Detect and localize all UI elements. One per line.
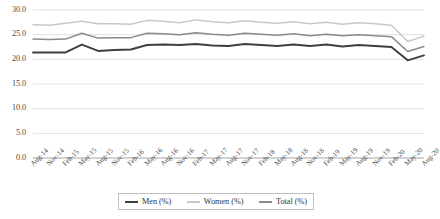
gridlines bbox=[33, 10, 424, 158]
legend-line-swatch-icon bbox=[125, 201, 138, 203]
y-axis-tick-label: 30.0 bbox=[0, 5, 26, 14]
chart-legend: Men (%)Women (%)Total (%) bbox=[118, 193, 314, 210]
y-axis-tick-label: 0.0 bbox=[0, 153, 26, 162]
y-axis-tick-label: 10.0 bbox=[0, 103, 26, 112]
legend-item[interactable]: Women (%) bbox=[187, 197, 244, 206]
y-axis-tick-label: 20.0 bbox=[0, 54, 26, 63]
legend-line-swatch-icon bbox=[187, 201, 200, 203]
series-lines bbox=[33, 20, 424, 60]
legend-item[interactable]: Men (%) bbox=[125, 197, 171, 206]
series-line-men bbox=[33, 44, 424, 60]
legend-label: Women (%) bbox=[204, 197, 244, 206]
legend-item[interactable]: Total (%) bbox=[259, 197, 307, 206]
y-axis-tick-label: 5.0 bbox=[0, 128, 26, 137]
series-line-women bbox=[33, 20, 424, 42]
legend-label: Total (%) bbox=[276, 197, 307, 206]
legend-line-swatch-icon bbox=[259, 201, 272, 203]
y-axis-tick-label: 25.0 bbox=[0, 29, 26, 38]
legend-label: Men (%) bbox=[142, 197, 171, 206]
y-axis-tick-label: 15.0 bbox=[0, 79, 26, 88]
